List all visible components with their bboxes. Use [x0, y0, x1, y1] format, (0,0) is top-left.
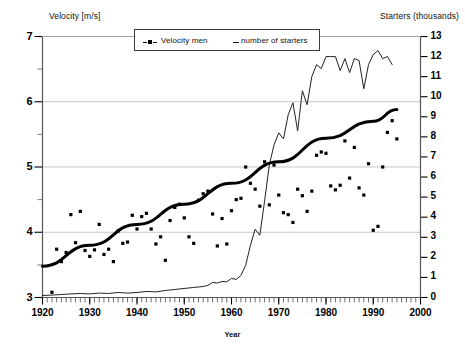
- minor-ticks: [38, 69, 421, 302]
- x-tick-label-1970: 1970: [259, 307, 299, 318]
- y-right-tick-label-4: 4: [431, 210, 453, 221]
- legend-marker-velocity-men: [148, 40, 152, 44]
- x-tick-label-1980: 1980: [306, 307, 346, 318]
- y-right-tick-label-12: 12: [431, 50, 453, 61]
- x-tick-label-1930: 1930: [70, 307, 110, 318]
- x-tick-label-1960: 1960: [212, 307, 252, 318]
- velocity-starters-chart: Velocity [m/s] Starters (thousands) Year…: [0, 0, 465, 352]
- y-left-tick-label-6: 6: [11, 95, 33, 107]
- y-right-tick-label-8: 8: [431, 130, 453, 141]
- legend-label-velocity-men: Velocity men: [161, 36, 208, 45]
- y-right-tick-label-2: 2: [431, 250, 453, 261]
- major-ticks: [35, 37, 428, 305]
- y-right-tick-label-13: 13: [431, 30, 453, 41]
- y-right-tick-label-11: 11: [431, 70, 453, 81]
- series-velocity-men-points: [50, 119, 398, 294]
- y-right-tick-label-6: 6: [431, 170, 453, 181]
- legend-marker-number-of-starters: [233, 42, 239, 43]
- y-left-tick-label-5: 5: [11, 160, 33, 172]
- y-left-tick-label-4: 4: [11, 225, 33, 237]
- y-right-tick-label-7: 7: [431, 150, 453, 161]
- legend-label-number-of-starters: number of starters: [241, 36, 308, 45]
- chart-legend: Velocity men number of starters: [134, 29, 320, 51]
- y-left-tick-label-7: 7: [11, 30, 33, 42]
- y-left-tick-label-3: 3: [11, 291, 33, 303]
- gridlines: [43, 37, 421, 233]
- x-tick-label-1940: 1940: [117, 307, 157, 318]
- y-right-tick-label-1: 1: [431, 270, 453, 281]
- plot-area: [0, 0, 465, 352]
- y-right-tick-label-10: 10: [431, 90, 453, 101]
- x-tick-label-1950: 1950: [164, 307, 204, 318]
- series-number-of-starters: [43, 51, 393, 296]
- y-right-tick-label-5: 5: [431, 190, 453, 201]
- y-right-tick-label-0: 0: [431, 291, 453, 302]
- x-tick-label-1990: 1990: [353, 307, 393, 318]
- y-right-tick-label-3: 3: [431, 230, 453, 241]
- x-tick-label-1920: 1920: [23, 307, 63, 318]
- x-tick-label-2000: 2000: [401, 307, 441, 318]
- series-velocity-trend-line: [43, 110, 397, 267]
- y-right-tick-label-9: 9: [431, 110, 453, 121]
